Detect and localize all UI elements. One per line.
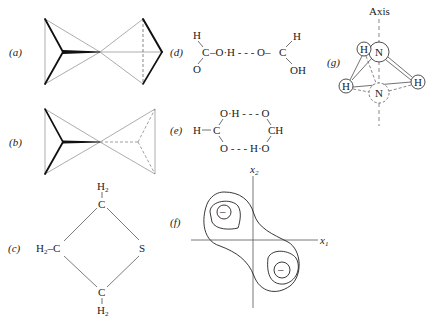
e-bottom-hbond: O - - - H·O [220, 142, 270, 154]
panel-a: (a) [9, 19, 162, 84]
c-top-h2: H2 [97, 180, 109, 194]
f-minus-upper: – [219, 205, 226, 217]
figure-canvas: (a) (b) [0, 0, 437, 326]
d-c-right: C [279, 46, 286, 58]
panel-f: (f) x1 x2 – – [170, 163, 328, 308]
g-axis-label: Axis [369, 5, 390, 17]
d-o-left: O [193, 63, 201, 75]
e-left-c: C [213, 124, 220, 136]
g-h-right: H [414, 76, 422, 88]
g-n-bottom: N [375, 87, 383, 99]
e-left-h: H [193, 124, 201, 136]
panel-c: (c) H2 C H2–C S C H2 [8, 180, 145, 318]
panel-g-label: (g) [327, 56, 340, 69]
f-x2-label: x2 [249, 163, 259, 177]
d-hydrogen-bridge: –O·H - - - O– [209, 46, 271, 58]
d-oh-right: OH [290, 64, 306, 76]
panel-e-label: (e) [170, 124, 183, 137]
e-right-ch: CH [268, 124, 283, 136]
panel-a-heavy-bonds [45, 19, 162, 84]
panel-b: (b) [9, 109, 155, 174]
panel-b-heavy-bonds [45, 109, 100, 174]
c-bottom-carbon: C [98, 286, 105, 298]
panel-f-label: (f) [170, 216, 181, 229]
c-ring-bonds [64, 208, 139, 287]
f-minus-lower: – [277, 263, 284, 275]
panel-d: (d) H C O –O·H - - - O– C H OH [170, 29, 306, 76]
g-h-left: H [342, 80, 350, 92]
panel-g: Axis (g) N H H H N [327, 5, 425, 126]
c-bottom-h2: H2 [97, 304, 109, 318]
c-left-h2: H2–C [36, 242, 60, 256]
g-n-top: N [375, 46, 383, 58]
panel-c-label: (c) [8, 242, 21, 255]
d-h-left: H [193, 29, 201, 41]
d-c-left: C [202, 46, 209, 58]
c-top-carbon: C [98, 198, 105, 210]
panel-b-label: (b) [9, 136, 22, 149]
e-top-hbond: O·H - - - O [220, 107, 270, 119]
d-h-right: H [293, 30, 301, 42]
f-x1-label: x1 [319, 234, 328, 248]
f-contours [204, 192, 299, 291]
g-h-back: H [360, 43, 368, 55]
panel-d-label: (d) [170, 46, 183, 59]
panel-a-label: (a) [9, 46, 22, 59]
panel-b-dashed-bonds [100, 109, 155, 174]
panel-e: (e) O·H - - - O H C CH O - - - H·O [170, 107, 283, 154]
c-sulfur: S [139, 242, 145, 254]
